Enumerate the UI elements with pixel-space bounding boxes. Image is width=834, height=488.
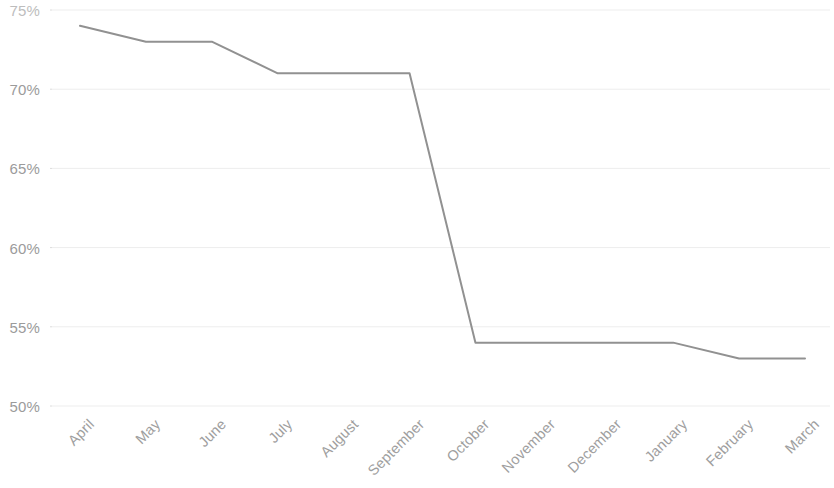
y-axis-tick-label: 70% [9, 81, 40, 98]
y-axis: 75%70%65%60%55%50% [0, 0, 46, 410]
line-chart: 75%70%65%60%55%50% AprilMayJuneJulyAugus… [0, 0, 834, 488]
data-series-layer [52, 0, 830, 410]
x-axis-tick-label: June [195, 416, 229, 450]
x-axis-tick-label: January [642, 416, 691, 465]
x-axis-tick-label: April [65, 416, 98, 449]
x-axis-tick-label: July [265, 416, 295, 446]
x-axis-tick-label: February [703, 416, 756, 469]
y-axis-tick-label: 60% [9, 239, 40, 256]
data-line [80, 26, 805, 359]
x-axis: AprilMayJuneJulyAugustSeptemberOctoberNo… [52, 410, 830, 488]
y-axis-tick-label: 55% [9, 318, 40, 335]
y-axis-tick-label: 75% [9, 2, 40, 19]
x-axis-tick-label: May [132, 416, 163, 447]
x-axis-tick-label: March [782, 416, 823, 457]
x-axis-tick-label: September [364, 416, 427, 479]
plot-area [52, 0, 830, 410]
y-axis-tick-label: 50% [9, 398, 40, 415]
x-axis-tick-label: August [317, 416, 361, 460]
x-axis-tick-label: November [499, 416, 559, 476]
y-axis-tick-label: 65% [9, 160, 40, 177]
x-axis-tick-label: December [565, 416, 625, 476]
x-axis-tick-label: October [444, 416, 493, 465]
